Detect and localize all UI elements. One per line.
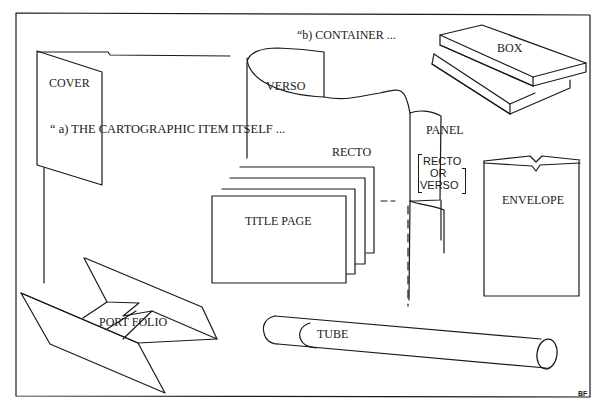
heading-container: “b) CONTAINER ... bbox=[297, 29, 396, 41]
panel-note-recto: RECTO bbox=[423, 156, 461, 167]
cartographic-item-diagram: COVER “ a) THE CARTOGRAPHIC ITEM ITSELF … bbox=[0, 0, 604, 412]
bracket-right bbox=[462, 168, 466, 194]
box-drawing bbox=[432, 25, 586, 114]
artist-signature: BF bbox=[578, 390, 587, 397]
cover-label: COVER bbox=[49, 77, 90, 89]
box-label: BOX bbox=[497, 42, 522, 54]
verso-label: VERSO bbox=[266, 80, 305, 92]
envelope-drawing bbox=[484, 156, 580, 296]
panel-label: PANEL bbox=[426, 124, 464, 136]
tube-label: TUBE bbox=[317, 328, 348, 340]
heading-cartographic-item: “ a) THE CARTOGRAPHIC ITEM ITSELF ... bbox=[50, 123, 285, 136]
panel-note-verso: VERSO bbox=[420, 180, 459, 191]
portfolio-label: PORT FOLIO bbox=[99, 316, 167, 328]
tube-drawing bbox=[263, 316, 559, 370]
panel-note-or: OR bbox=[430, 168, 447, 179]
envelope-label: ENVELOPE bbox=[502, 194, 564, 206]
recto-label: RECTO bbox=[332, 146, 371, 158]
title-page-label: TITLE PAGE bbox=[245, 215, 312, 227]
